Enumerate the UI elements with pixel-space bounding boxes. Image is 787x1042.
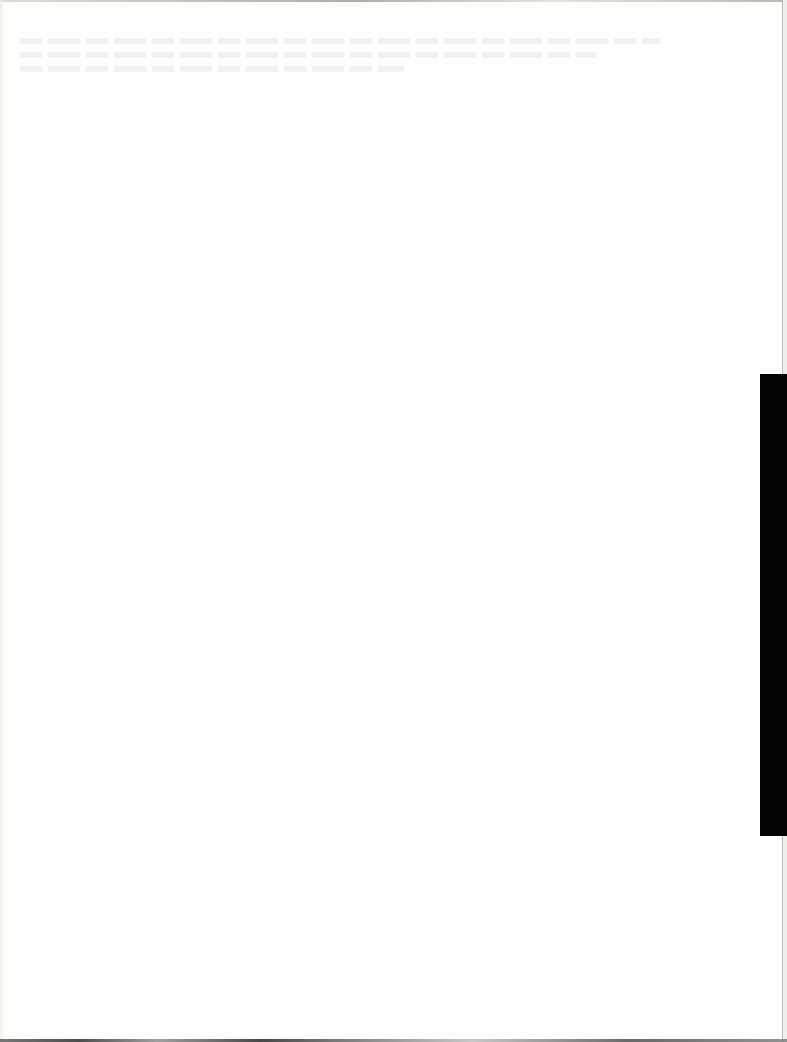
- show-through-line: [20, 52, 596, 58]
- faint-show-through-text: [20, 30, 660, 100]
- show-through-line: [20, 38, 660, 44]
- top-scan-edge: [0, 0, 787, 2]
- black-index-tab: [760, 374, 787, 836]
- left-scan-edge: [0, 0, 3, 1042]
- show-through-line: [20, 66, 404, 72]
- blank-page: [0, 0, 782, 1042]
